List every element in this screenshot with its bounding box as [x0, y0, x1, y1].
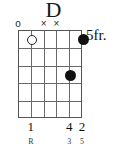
fret-line [19, 66, 81, 67]
open-string-circle [27, 35, 37, 45]
finger-number: 1 [24, 120, 38, 134]
string-line [44, 31, 45, 117]
fret-line [19, 83, 81, 84]
finger-dot [65, 70, 76, 81]
interval-label: R [24, 136, 38, 147]
fret-line [19, 101, 81, 102]
guitar-chord-diagram: D o×× 5fr. 142 R35 [0, 0, 123, 153]
muted-string-icon: × [38, 19, 49, 29]
fretboard-grid [18, 30, 82, 118]
open-string-icon: o [13, 19, 24, 29]
string-line [56, 31, 57, 117]
interval-label: 5 [75, 136, 89, 147]
fret-position-label: 5fr. [86, 28, 106, 43]
fret-line [19, 48, 81, 49]
string-state-row: o×× [18, 19, 82, 29]
muted-string-icon: × [51, 19, 62, 29]
interval-label-row: R35 [18, 136, 82, 147]
finger-number: 2 [75, 120, 89, 134]
finger-number-row: 142 [18, 120, 82, 134]
